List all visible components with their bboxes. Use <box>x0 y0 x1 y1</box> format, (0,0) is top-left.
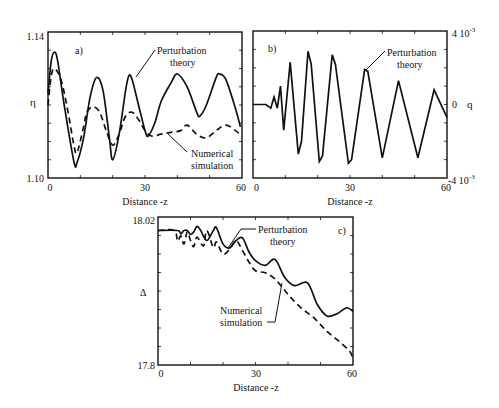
panel-a-annotation-numerical-line2: simulation <box>191 160 233 171</box>
panel-c-ytick-top: 18.02 <box>133 215 156 226</box>
panel-c-ytick-bottom: 17.8 <box>138 360 156 371</box>
panel-b-annotation-perturbation-line1: Perturbation <box>387 47 436 58</box>
panel-c-annotation-arrow-numerical <box>267 283 282 322</box>
panel-a-annotation-perturbation-line2: theory <box>170 57 196 68</box>
figure-canvas: a) Perturbation theory Numerical simulat… <box>0 0 499 408</box>
panel-c-annotation-perturbation-line1: Perturbation <box>258 224 307 235</box>
panel-c-annotation-numerical-line2: simulation <box>220 317 262 328</box>
panel-b-xtick-30: 30 <box>345 182 355 193</box>
panel-b-annotation-arrow <box>365 51 385 71</box>
panel-b-xlabel: Distance -z <box>327 196 373 207</box>
panel-a-xtick-30: 30 <box>140 182 150 193</box>
panel-c-annotation-perturbation-line2: theory <box>270 236 296 247</box>
panel-a: a) Perturbation theory Numerical simulat… <box>27 31 247 207</box>
panel-b-ytick-top: 4 10-3 <box>452 26 476 39</box>
panel-b-ylabel: q <box>467 98 473 110</box>
panel-a-annotation-perturbation-line1: Perturbation <box>157 45 206 56</box>
panel-a-xtick-0: 0 <box>48 182 53 193</box>
panel-b-label: b) <box>268 43 276 55</box>
panel-b-ytick-zero: 0 <box>452 99 457 110</box>
panel-c-frame <box>158 217 353 365</box>
panel-b-annotation-perturbation-line2: theory <box>397 59 423 70</box>
panel-b-xtick-0: 0 <box>254 182 259 193</box>
panel-c-xtick-60: 60 <box>347 368 357 379</box>
panel-a-ylabel: η <box>30 96 36 108</box>
panel-a-ytick-bottom: 1.10 <box>27 173 45 184</box>
panel-a-ytick-top: 1.14 <box>27 31 45 42</box>
panel-a-xtick-60: 60 <box>236 182 246 193</box>
panel-b-xtick-60: 60 <box>441 182 451 193</box>
panel-a-annotation-arrow-numerical <box>168 134 187 152</box>
panel-c-annotation-numerical-line1: Numerical <box>220 305 262 316</box>
panel-c-xlabel: Distance -z <box>233 382 279 393</box>
panel-a-annotation-numerical-line1: Numerical <box>191 148 233 159</box>
panel-c-xtick-0: 0 <box>159 368 164 379</box>
panel-c: c) Perturbation theory Numerical simulat… <box>133 215 358 393</box>
panel-c-ylabel: Δ <box>140 287 147 298</box>
panel-c-label: c) <box>338 225 346 237</box>
panel-b-ytick-bottom: -4 10-3 <box>448 173 475 186</box>
panel-c-numerical-line <box>158 230 353 359</box>
panel-c-xtick-30: 30 <box>251 368 261 379</box>
panel-a-xlabel: Distance -z <box>122 196 168 207</box>
panel-a-label: a) <box>75 45 83 57</box>
panel-a-annotation-arrow-perturbation <box>136 50 155 77</box>
panel-a-numerical-line <box>48 68 242 153</box>
panel-b: b) Perturbation theory 4 10-3 0 q -4 10-… <box>253 26 476 207</box>
panel-c-ticks <box>158 217 353 365</box>
